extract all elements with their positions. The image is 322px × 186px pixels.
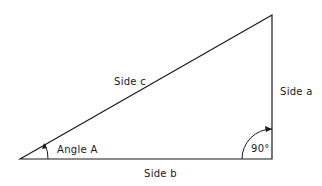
right-angle-arrowhead-icon [265,126,272,132]
side-c-label: Side c [114,76,146,87]
side-b-label: Side b [144,168,177,179]
angle-a-label: Angle A [57,144,98,155]
right-angle-label: 90° [251,143,270,154]
triangle [20,15,272,159]
triangle-diagram [0,0,322,186]
side-a-label: Side a [280,86,313,97]
